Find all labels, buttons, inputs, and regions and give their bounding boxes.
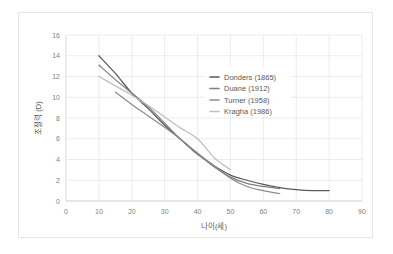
x-axis-tick-label: 10 bbox=[95, 208, 103, 215]
chart-card: 02468101214160102030405060708090조절력 (D)나… bbox=[18, 12, 373, 238]
y-axis-tick-label: 6 bbox=[56, 135, 60, 142]
x-axis-tick-label: 30 bbox=[161, 208, 169, 215]
x-axis-tick-label: 50 bbox=[227, 208, 235, 215]
x-axis-tick-label: 70 bbox=[292, 208, 300, 215]
y-axis-tick-label: 8 bbox=[56, 115, 60, 122]
legend-item-label-3[interactable]: Turner (1958) bbox=[224, 96, 270, 105]
x-axis-tick-label: 0 bbox=[64, 208, 68, 215]
y-axis-tick-label: 10 bbox=[52, 94, 60, 101]
y-axis-tick-label: 14 bbox=[52, 52, 60, 59]
legend-item-label-2[interactable]: Duane (1912) bbox=[224, 84, 270, 93]
y-axis-tick-label: 4 bbox=[56, 156, 60, 163]
y-axis-title: 조절력 (D) bbox=[34, 101, 43, 135]
y-axis-tick-label: 0 bbox=[56, 198, 60, 205]
x-axis-tick-label: 20 bbox=[128, 208, 136, 215]
x-axis-tick-label: 60 bbox=[259, 208, 267, 215]
y-axis-tick-label: 16 bbox=[52, 32, 60, 39]
line-chart: 02468101214160102030405060708090조절력 (D)나… bbox=[19, 13, 374, 239]
chart-plot-area: 02468101214160102030405060708090조절력 (D)나… bbox=[19, 13, 372, 237]
legend-item-label-4[interactable]: Kragha (1986) bbox=[224, 107, 272, 116]
x-axis-tick-label: 80 bbox=[325, 208, 333, 215]
x-axis-tick-label: 90 bbox=[358, 208, 366, 215]
y-axis-tick-label: 12 bbox=[52, 73, 60, 80]
x-axis-tick-label: 40 bbox=[194, 208, 202, 215]
y-axis-tick-label: 2 bbox=[56, 177, 60, 184]
legend-item-label-1[interactable]: Donders (1865) bbox=[224, 73, 277, 82]
x-axis-title: 나이(세) bbox=[201, 221, 227, 231]
